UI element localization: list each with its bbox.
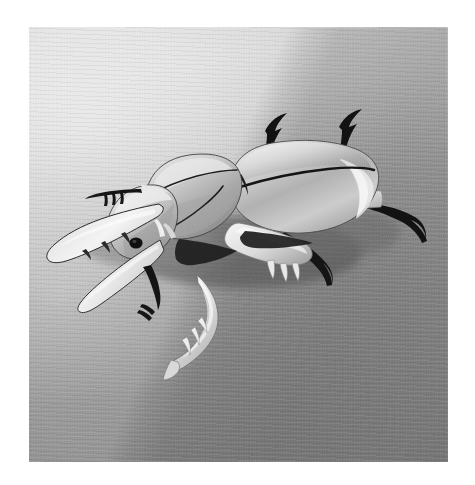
photograph: Black and white photograph of a folded p… <box>29 27 448 462</box>
photo-grain <box>29 27 448 462</box>
screenshot-root: Black and white photograph of a folded p… <box>0 0 475 485</box>
